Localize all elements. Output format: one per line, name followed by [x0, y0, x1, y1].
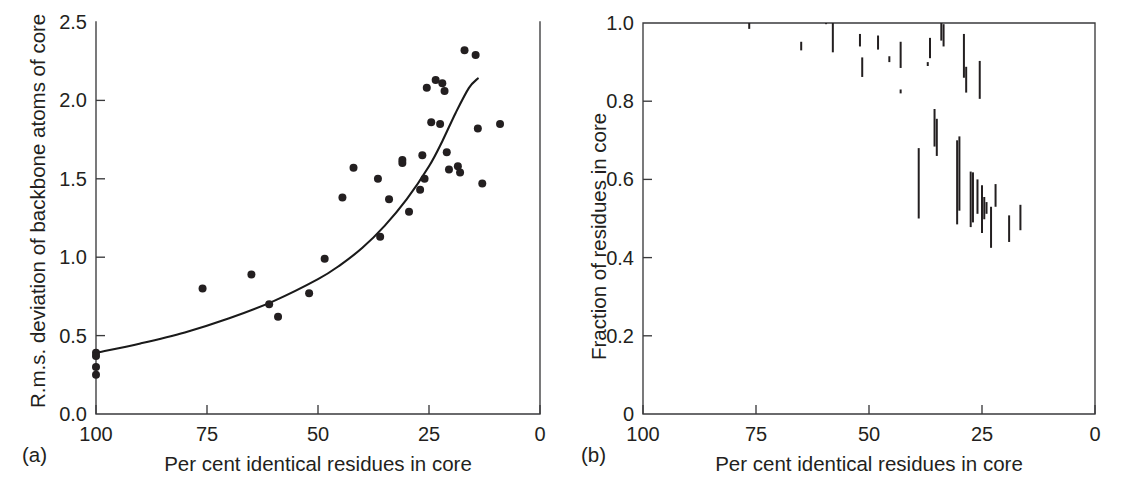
- panel-b-x-ticks: [643, 405, 1095, 414]
- panel-a-x-axis-title: Per cent identical residues in core: [164, 452, 472, 476]
- data-point: [398, 159, 406, 167]
- panel-a-data-points: [92, 46, 504, 379]
- panel-a-x-ticks: [96, 405, 540, 414]
- panel-a-y-axis-title: R.m.s. deviation of backbone atoms of co…: [26, 14, 50, 408]
- data-point: [305, 289, 313, 297]
- panel-b-axes: [643, 23, 1095, 414]
- y-tick-label: 1.0: [59, 247, 87, 267]
- data-point: [496, 120, 504, 128]
- data-point: [456, 169, 464, 177]
- panel-a-caption: (a): [22, 443, 47, 467]
- data-point: [247, 270, 255, 278]
- x-tick-label: 0: [1089, 424, 1100, 444]
- y-tick-label: 0.0: [59, 404, 87, 424]
- data-point: [427, 118, 435, 126]
- data-point: [385, 195, 393, 203]
- data-point: [441, 87, 449, 95]
- panel-b-caption: (b): [581, 443, 606, 467]
- data-point: [461, 46, 469, 54]
- figure-container: 1007550250 0.00.51.01.52.02.5 Per cent i…: [0, 0, 1125, 500]
- data-point: [405, 208, 413, 216]
- data-point: [321, 255, 329, 263]
- x-tick-label: 25: [418, 424, 440, 444]
- x-tick-label: 25: [971, 424, 993, 444]
- y-tick-label: 0: [623, 404, 634, 424]
- data-point: [472, 51, 480, 59]
- panel-a-axes: [96, 22, 540, 414]
- panel-b-x-axis-title: Per cent identical residues in core: [715, 452, 1023, 476]
- x-tick-label: 75: [196, 424, 218, 444]
- data-point: [350, 164, 358, 172]
- panel-b-range-bars: [749, 23, 1020, 248]
- data-point: [443, 148, 451, 156]
- panel-b: 1007550250 00.20.40.60.81.0 Per cent ide…: [563, 0, 1125, 500]
- y-tick-label: 1.5: [59, 169, 87, 189]
- y-tick-label: 2.0: [59, 90, 87, 110]
- data-point: [92, 363, 100, 371]
- data-point: [423, 84, 431, 92]
- data-point: [274, 313, 282, 321]
- x-tick-label: 100: [79, 424, 112, 444]
- x-tick-label: 50: [307, 424, 329, 444]
- panel-b-y-ticks: [643, 101, 652, 336]
- data-point: [436, 120, 444, 128]
- data-point: [478, 180, 486, 188]
- panel-b-y-axis-title: Fraction of residues in core: [587, 113, 611, 360]
- y-tick-label: 0.5: [59, 326, 87, 346]
- data-point: [474, 125, 482, 133]
- panel-a: 1007550250 0.00.51.01.52.02.5 Per cent i…: [0, 0, 562, 500]
- panel-a-fit-curve: [96, 78, 478, 352]
- data-point: [416, 186, 424, 194]
- data-point: [338, 194, 346, 202]
- data-point: [92, 371, 100, 379]
- data-point: [199, 285, 207, 293]
- data-point: [92, 352, 100, 360]
- data-point: [418, 151, 426, 159]
- data-point: [438, 79, 446, 87]
- panel-a-y-ticks: [96, 100, 105, 335]
- y-tick-label: 1.0: [606, 13, 634, 33]
- x-tick-label: 50: [858, 424, 880, 444]
- y-tick-label: 2.5: [59, 12, 87, 32]
- y-tick-label: 0.8: [606, 91, 634, 111]
- data-point: [374, 175, 382, 183]
- x-tick-label: 0: [534, 424, 545, 444]
- x-tick-label: 75: [745, 424, 767, 444]
- data-point: [265, 300, 273, 308]
- data-point: [376, 233, 384, 241]
- data-point: [421, 175, 429, 183]
- x-tick-label: 100: [626, 424, 659, 444]
- data-point: [445, 165, 453, 173]
